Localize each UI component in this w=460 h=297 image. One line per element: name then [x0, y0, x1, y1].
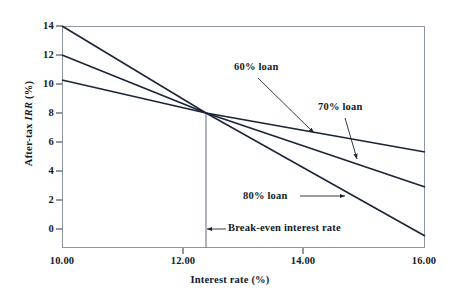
- y-tick-10: 10: [43, 79, 54, 90]
- y-axis-title: After-tax IRR (%): [23, 34, 34, 214]
- x-axis-tick-labels: 10.00 12.00 14.00 16.00: [0, 256, 460, 272]
- x-axis-title: Interest rate (%): [0, 274, 460, 285]
- y-tick-2: 2: [49, 195, 54, 206]
- y-tick-4: 4: [49, 166, 54, 177]
- y-axis-title-prefix: After-tax: [23, 121, 34, 167]
- plot-area: [62, 26, 425, 248]
- annotation-60-loan: 60% loan: [234, 62, 278, 73]
- y-tick-0: 0: [49, 224, 54, 235]
- x-tick-10: 10.00: [50, 256, 75, 267]
- annotation-70-loan: 70% loan: [318, 102, 362, 113]
- y-tick-6: 6: [49, 137, 54, 148]
- x-tick-12: 12.00: [171, 256, 196, 267]
- x-tick-14: 14.00: [291, 256, 316, 267]
- x-tick-marks: [183, 248, 303, 254]
- annotation-breakeven: Break-even interest rate: [228, 223, 341, 234]
- y-axis-title-suffix: (%): [23, 81, 34, 102]
- y-tick-14: 14: [43, 21, 54, 32]
- annotation-80-loan: 80% loan: [243, 191, 287, 202]
- y-tick-8: 8: [49, 108, 54, 119]
- irr-sensitivity-chart: 14 12 10 8 6 4 2 0 10.00 12.00 14.00 16.…: [0, 0, 460, 297]
- y-axis-title-italic: IRR: [23, 102, 34, 121]
- x-tick-16: 16.00: [412, 256, 437, 267]
- y-tick-12: 12: [43, 50, 54, 61]
